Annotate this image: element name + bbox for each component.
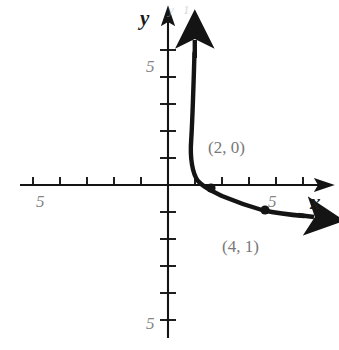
x-tick-label-negative-5: 5 <box>36 192 45 212</box>
x-axis-label: x <box>310 190 321 215</box>
y-tick-label-negative-5: 5 <box>146 314 155 334</box>
scan-artifact-text: y 1 <box>168 2 193 18</box>
x-tick-label-positive-5: 5 <box>268 192 277 212</box>
data-point-2-0 <box>206 183 215 192</box>
y-tick-label-positive-5: 5 <box>146 57 155 77</box>
y-axis-label: y <box>140 6 149 31</box>
curve-path <box>191 53 304 216</box>
point-label-4-minus1: (4, 1) <box>222 237 259 257</box>
curve-arrow-right <box>298 215 314 217</box>
math-figure-container: y 1 y x 5 5 5 5 (2, 0) (4, 1) <box>0 0 339 350</box>
coordinate-plane-svg <box>0 0 339 350</box>
point-label-2-0: (2, 0) <box>208 138 245 158</box>
